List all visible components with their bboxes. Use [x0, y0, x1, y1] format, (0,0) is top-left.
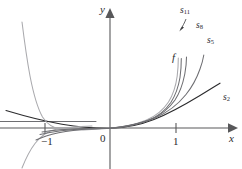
taylor-approximation-figure: y x 0 −1 1 s11 s8 s5 s2 f: [0, 0, 242, 169]
curve-s8: [40, 57, 187, 135]
curve-label-s8-subscript: 8: [200, 23, 203, 30]
curve-s5: [36, 55, 204, 140]
figure-canvas: [0, 0, 242, 169]
curve-label-s2: s2: [223, 93, 230, 103]
x-tick-label-minus-one: −1: [41, 136, 53, 147]
x-tick-label-one: 1: [173, 136, 179, 147]
curve-f: [22, 22, 178, 130]
s11-pointer: [179, 19, 186, 32]
curve-label-s11: s11: [180, 6, 190, 16]
x-axis-label: x: [229, 133, 234, 144]
axes-group: [0, 8, 238, 169]
curve-label-s2-subscript: 2: [227, 95, 230, 102]
curve-f-lower-branch: [22, 126, 92, 168]
curve-label-s8: s8: [196, 21, 203, 31]
y-axis-arrowhead: [105, 8, 114, 18]
curve-label-s5: s5: [207, 36, 214, 46]
curve-label-f: f: [172, 52, 175, 63]
curve-label-s5-subscript: 5: [211, 38, 214, 45]
y-axis-label: y: [100, 4, 105, 15]
curve-label-s11-subscript: 11: [184, 8, 190, 15]
origin-label: 0: [100, 133, 106, 144]
